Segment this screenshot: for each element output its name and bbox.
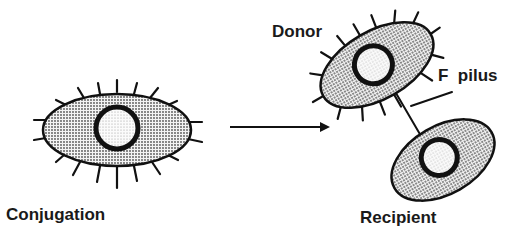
f-pilus-label: F pilus: [438, 66, 498, 86]
conjugation-diagram: [0, 0, 527, 235]
bacterium-cell: [34, 80, 202, 188]
conjugation-label: Conjugation: [6, 205, 105, 225]
recipient-cell: [378, 103, 509, 218]
recipient-label: Recipient: [360, 208, 437, 228]
nucleus: [96, 107, 138, 149]
donor-label: Donor: [272, 22, 322, 42]
